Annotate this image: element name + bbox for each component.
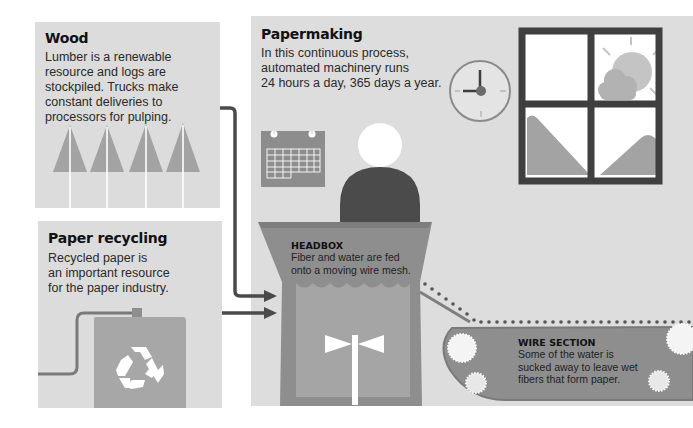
clock-icon [450,61,510,121]
calendar-icon [261,127,325,187]
wire-mesh [420,282,691,324]
flow-arrows [220,108,265,313]
recycle-bin [38,308,186,408]
headbox-title: HEADBOX [291,240,431,251]
wire-section-label: WIRE SECTION Some of the water is sucked… [518,337,658,386]
worker-icon [340,123,420,222]
headbox-label: HEADBOX Fiber and water are fed onto a m… [291,240,431,276]
window-icon [519,29,662,184]
wire-section-title: WIRE SECTION [518,337,658,348]
